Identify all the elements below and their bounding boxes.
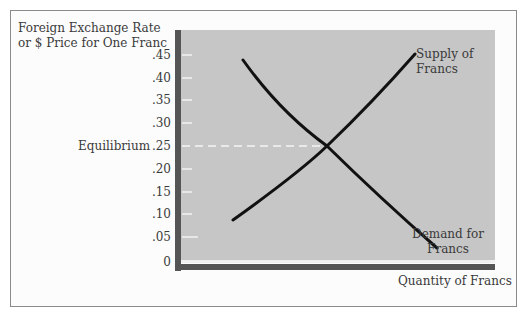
supply-label: Supply of Francs <box>416 47 473 77</box>
x-axis-bar <box>175 264 495 270</box>
plot-inner-edge <box>181 260 495 263</box>
demand-label-line-1: Demand for <box>407 227 489 242</box>
y-axis-bar <box>175 30 181 271</box>
supply-label-line-1: Supply of <box>416 47 473 62</box>
demand-label-line-2: Francs <box>407 242 489 257</box>
demand-label: Demand for Francs <box>407 227 489 257</box>
x-axis-title: Quantity of Francs <box>398 274 512 288</box>
supply-label-line-2: Francs <box>416 62 473 77</box>
